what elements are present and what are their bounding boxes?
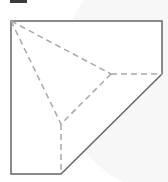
diagram-canvas: [0, 0, 168, 182]
fold-diagram: [0, 0, 168, 182]
